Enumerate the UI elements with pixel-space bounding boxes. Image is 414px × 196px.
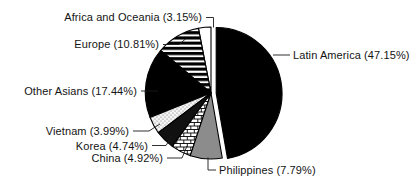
pie-chart-figure: Africa and Oceania (3.15%) Europe (10.81… xyxy=(0,0,414,196)
label-korea: Korea (4.74%) xyxy=(76,140,148,152)
label-philippines: Philippines (7.79%) xyxy=(219,164,316,176)
pie-chart-svg: Africa and Oceania (3.15%) Europe (10.81… xyxy=(0,0,414,196)
label-vietnam: Vietnam (3.99%) xyxy=(46,125,129,137)
label-other-asians: Other Asians (17.44%) xyxy=(24,85,137,97)
label-europe: Europe (10.81%) xyxy=(74,38,159,50)
label-latin-america: Latin America (47.15%) xyxy=(293,49,410,61)
label-china: China (4.92%) xyxy=(91,152,163,164)
label-africa-and-oceania: Africa and Oceania (3.15%) xyxy=(64,11,202,23)
